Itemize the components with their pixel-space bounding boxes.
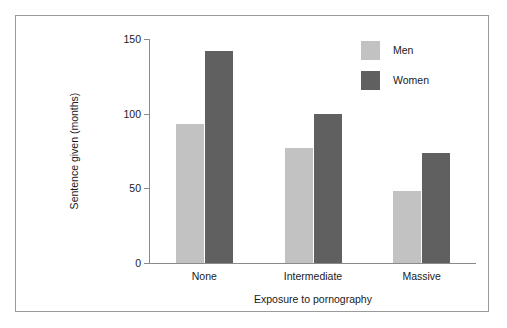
y-axis-tick-label: 50 <box>129 183 141 194</box>
legend-label-women: Women <box>393 75 429 86</box>
legend-item-women[interactable]: Women <box>361 68 429 92</box>
y-axis-tick-label: 150 <box>123 34 141 45</box>
legend-swatch-men <box>361 41 380 60</box>
bar-women-none[interactable] <box>205 51 233 263</box>
bar-women-massive[interactable] <box>422 153 450 264</box>
y-axis-tick-labels: 050100150 <box>105 39 141 263</box>
bar-women-intermediate[interactable] <box>314 114 342 263</box>
x-axis-line <box>149 263 476 264</box>
bar-group-none <box>176 39 233 263</box>
x-axis-title: Exposure to pornography <box>150 292 476 306</box>
x-axis-tick-labels: NoneIntermediateMassive <box>150 269 476 283</box>
y-axis-title: Sentence given (months) <box>67 39 81 263</box>
x-axis-tick-label: Massive <box>402 269 441 283</box>
y-axis-tick <box>144 114 149 115</box>
y-axis-tick <box>144 188 149 189</box>
y-axis-tick-label: 0 <box>135 258 141 269</box>
bar-men-intermediate[interactable] <box>285 148 313 263</box>
y-axis-tick <box>144 263 149 264</box>
chart-legend: MenWomen <box>361 38 429 98</box>
figure-frame: 050100150 Sentence given (months) NoneIn… <box>15 15 489 312</box>
legend-item-men[interactable]: Men <box>361 38 429 62</box>
y-axis-tick <box>144 39 149 40</box>
legend-label-men: Men <box>393 45 413 56</box>
bar-men-massive[interactable] <box>393 191 421 263</box>
y-axis-tick-label: 100 <box>123 109 141 120</box>
bar-men-none[interactable] <box>176 124 204 263</box>
legend-swatch-women <box>361 71 380 90</box>
x-axis-tick-label: Intermediate <box>284 269 342 283</box>
x-axis-tick-label: None <box>192 269 217 283</box>
bar-group-intermediate <box>285 39 342 263</box>
